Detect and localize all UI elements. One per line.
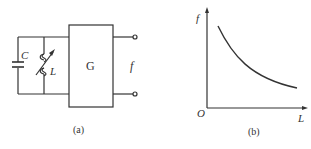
- origin-label: O: [197, 107, 205, 119]
- lc-tank-circuit: [12, 37, 69, 94]
- output-label: f: [130, 59, 135, 73]
- diagram-canvas: C L G f (a) f O L (b): [0, 0, 311, 149]
- output-terminal-top: [133, 35, 137, 39]
- y-axis-arrow-icon: [205, 7, 209, 13]
- capacitor-label: C: [21, 49, 29, 61]
- block-label: G: [86, 59, 95, 73]
- y-axis-label: f: [196, 12, 201, 24]
- x-axis-arrow-icon: [302, 106, 308, 110]
- f-curve: [218, 26, 297, 88]
- output-terminal-bottom: [133, 92, 137, 96]
- caption-a: (a): [73, 124, 84, 136]
- f-vs-l-chart: [207, 10, 305, 108]
- x-axis-label: L: [297, 112, 304, 124]
- inductor-label: L: [49, 65, 56, 77]
- caption-b: (b): [248, 126, 260, 138]
